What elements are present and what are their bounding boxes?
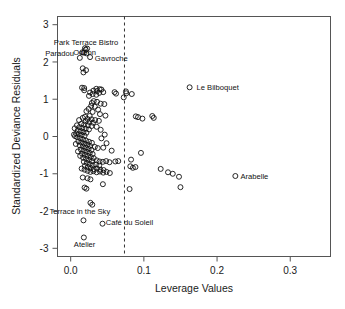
data-point bbox=[104, 159, 109, 164]
y-tick-label: -3 bbox=[40, 243, 49, 254]
point-annotation: Paradou bbox=[45, 49, 74, 58]
data-point bbox=[129, 92, 134, 97]
data-point bbox=[101, 145, 106, 150]
scatter-plot-figure: 0.00.10.20.3 3210-1-2-3 Park Terrace Bis… bbox=[0, 0, 345, 309]
data-point bbox=[138, 150, 143, 155]
y-tick-label: 1 bbox=[43, 94, 49, 105]
y-tick-label: 3 bbox=[43, 19, 49, 30]
data-point bbox=[103, 113, 108, 118]
point-annotation: Le Bilboquet bbox=[197, 83, 240, 92]
data-point bbox=[127, 187, 132, 192]
data-point bbox=[99, 136, 104, 141]
data-point bbox=[82, 167, 87, 172]
y-tick-label: 0 bbox=[43, 131, 49, 142]
data-point bbox=[178, 185, 183, 190]
data-point bbox=[116, 159, 121, 164]
data-point bbox=[140, 116, 145, 121]
data-point bbox=[80, 175, 85, 180]
data-point bbox=[81, 218, 86, 223]
data-point bbox=[85, 168, 90, 173]
point-annotation: Arabelle bbox=[240, 172, 268, 181]
data-point bbox=[98, 127, 103, 132]
point-annotation: Terrace in the Sky bbox=[49, 207, 110, 216]
data-point bbox=[79, 166, 84, 171]
x-tick-label: 0.3 bbox=[283, 265, 297, 276]
point-annotation: Park Terrace Bistro bbox=[54, 38, 118, 47]
data-point bbox=[107, 171, 112, 176]
data-point bbox=[95, 146, 100, 151]
data-point bbox=[166, 170, 171, 175]
y-tick-label: -1 bbox=[40, 168, 49, 179]
x-axis-ticks bbox=[71, 257, 291, 262]
point-annotation: Atelier bbox=[74, 240, 96, 249]
data-point bbox=[129, 157, 134, 162]
data-point bbox=[177, 174, 182, 179]
data-point bbox=[97, 112, 102, 117]
data-point bbox=[158, 166, 163, 171]
y-axis-title: Standardized Deviance Residuals bbox=[10, 57, 22, 215]
data-point bbox=[170, 171, 175, 176]
data-point bbox=[85, 176, 90, 181]
x-tick-label: 0.2 bbox=[210, 265, 224, 276]
point-annotation: Gavroche bbox=[95, 54, 128, 63]
data-point bbox=[107, 160, 112, 165]
data-point bbox=[100, 182, 105, 187]
point-annotation: Café du Soleil bbox=[106, 218, 154, 227]
data-point bbox=[187, 85, 192, 90]
plot-canvas: 0.00.10.20.3 3210-1-2-3 Park Terrace Bis… bbox=[0, 0, 345, 309]
data-point bbox=[121, 95, 126, 100]
x-axis-tick-labels: 0.00.10.20.3 bbox=[64, 265, 298, 276]
data-point bbox=[88, 177, 93, 182]
x-tick-label: 0.1 bbox=[137, 265, 151, 276]
x-tick-label: 0.0 bbox=[64, 265, 78, 276]
x-axis-title: Leverage Values bbox=[155, 282, 233, 294]
plot-frame bbox=[58, 17, 331, 257]
y-tick-label: 2 bbox=[43, 57, 49, 68]
data-point bbox=[92, 144, 97, 149]
data-point bbox=[100, 221, 105, 226]
point-annotation: Odeon bbox=[73, 48, 96, 57]
data-point bbox=[104, 141, 109, 146]
data-point bbox=[109, 148, 114, 153]
y-tick-label: -2 bbox=[40, 206, 49, 217]
data-point bbox=[233, 174, 238, 179]
data-point bbox=[102, 102, 107, 107]
